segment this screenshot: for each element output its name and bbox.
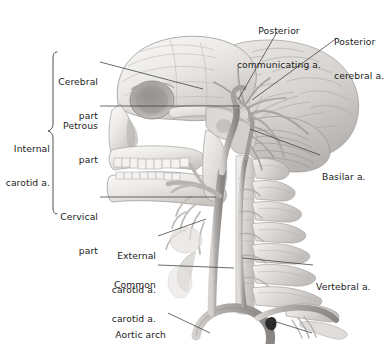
leader-common-carotid bbox=[158, 265, 234, 268]
label-basilar-line1: Basilar a. bbox=[322, 171, 384, 182]
label-internal-carotid-line1: Internal bbox=[0, 143, 50, 154]
label-cervical-part: Cervical part bbox=[50, 189, 98, 279]
label-cervical-part-line1: Cervical bbox=[50, 211, 98, 222]
label-posterior-cerebral-line1: Posterior bbox=[334, 36, 388, 47]
label-vertebral-line1: Vertebral a. bbox=[316, 281, 386, 292]
label-vertebral: Vertebral a. bbox=[316, 259, 386, 315]
label-internal-carotid-line2: carotid a. bbox=[0, 177, 50, 188]
label-common-carotid-line1: Common bbox=[104, 279, 156, 290]
label-posterior-cerebral: Posterior cerebral a. bbox=[334, 14, 388, 104]
anatomy-figure: Internal carotid a. Cerebral part Petrou… bbox=[0, 0, 388, 344]
label-posterior-communicating-line2: communicating a. bbox=[233, 59, 325, 70]
label-posterior-cerebral-line2: cerebral a. bbox=[334, 70, 388, 81]
label-cervical-part-line2: part bbox=[50, 245, 98, 256]
label-petrous-part-line2: part bbox=[50, 154, 98, 165]
label-petrous-part: Petrous part bbox=[50, 98, 98, 188]
label-petrous-part-line1: Petrous bbox=[50, 120, 98, 131]
label-internal-carotid: Internal carotid a. bbox=[0, 121, 50, 211]
label-basilar: Basilar a. bbox=[322, 149, 384, 205]
lower-teeth bbox=[116, 172, 180, 180]
label-aortic-arch: Aortic arch bbox=[104, 307, 166, 344]
label-cerebral-part-line1: Cerebral bbox=[50, 76, 98, 87]
label-posterior-communicating: Posterior communicating a. bbox=[233, 3, 325, 93]
label-aortic-arch-line1: Aortic arch bbox=[104, 329, 166, 340]
label-posterior-communicating-line1: Posterior bbox=[233, 25, 325, 36]
label-subclavian: Subclavian a. bbox=[315, 327, 388, 344]
